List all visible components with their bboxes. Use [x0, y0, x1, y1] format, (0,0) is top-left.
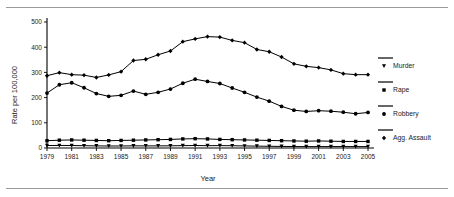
data-point-marker	[366, 72, 370, 76]
x-axis-tick-label: 2005	[361, 153, 376, 160]
data-point-marker	[243, 90, 247, 94]
data-point-marker	[82, 73, 86, 77]
data-point-marker	[341, 71, 345, 75]
legend-item-label: Murder	[393, 62, 415, 69]
series-agg-assault	[45, 34, 370, 79]
data-point-marker	[57, 70, 61, 74]
data-point-marker	[107, 139, 110, 142]
y-axis-tick-label: 200	[31, 94, 42, 101]
data-point-marker	[242, 40, 246, 44]
data-point-marker	[218, 35, 222, 39]
data-point-marker	[156, 138, 159, 141]
series-robbery	[45, 77, 370, 115]
y-axis-tick-label: 0	[38, 144, 42, 151]
y-axis-tick-label: 300	[31, 69, 42, 76]
data-point-marker	[144, 92, 148, 96]
data-point-marker	[70, 72, 74, 76]
data-point-marker	[95, 139, 98, 142]
data-point-marker	[255, 138, 258, 141]
data-point-marker	[366, 111, 370, 115]
legend-item-murder[interactable]: Murder	[378, 58, 415, 69]
data-point-marker	[317, 109, 321, 113]
data-point-marker	[70, 81, 74, 85]
x-axis: 1979198119831985198719891991199319951997…	[40, 148, 376, 160]
data-point-marker	[280, 105, 284, 109]
data-point-marker	[181, 81, 185, 85]
y-axis-tick-label: 100	[31, 119, 42, 126]
data-point-marker	[279, 55, 283, 59]
data-point-marker	[292, 108, 296, 112]
data-point-marker	[230, 38, 234, 42]
chart-figure: 0100200300400500 19791981198319851987198…	[0, 0, 454, 197]
data-point-marker	[218, 138, 221, 141]
data-point-marker	[341, 110, 345, 114]
x-axis-tick-label: 1999	[287, 153, 302, 160]
data-point-marker	[267, 50, 271, 54]
y-axis-tick-label: 500	[31, 18, 42, 25]
legend-item-agg-assault[interactable]: Agg. Assault	[378, 130, 431, 142]
data-point-marker	[218, 82, 222, 86]
x-axis-tick-label: 1985	[114, 153, 129, 160]
data-point-marker	[280, 139, 283, 142]
y-axis-tick-label: 400	[31, 44, 42, 51]
data-point-marker	[205, 34, 209, 38]
data-point-marker	[329, 109, 333, 113]
data-point-marker	[354, 72, 358, 76]
data-point-marker	[329, 68, 333, 72]
data-point-marker	[382, 88, 385, 91]
legend-item-rape[interactable]: Rape	[378, 82, 409, 94]
series-rape	[45, 137, 369, 143]
legend-item-label: Robbery	[393, 110, 419, 118]
data-point-marker	[304, 110, 308, 114]
legend-item-label: Rape	[393, 86, 409, 94]
data-point-marker	[169, 87, 173, 91]
data-point-marker	[94, 75, 98, 79]
data-point-marker	[193, 77, 197, 81]
legend-item-robbery[interactable]: Robbery	[378, 106, 419, 118]
data-point-marker	[132, 89, 136, 93]
data-point-marker	[366, 140, 369, 143]
data-point-marker	[45, 91, 49, 95]
x-axis-tick-label: 2001	[311, 153, 326, 160]
x-axis-tick-label: 1987	[139, 153, 154, 160]
chart-legend: MurderRapeRobberyAgg. Assault	[378, 58, 431, 142]
data-point-marker	[267, 99, 271, 103]
data-point-marker	[156, 53, 160, 57]
data-point-marker	[292, 139, 295, 142]
data-point-marker	[107, 73, 111, 77]
data-point-marker	[342, 140, 345, 143]
data-point-marker	[292, 62, 296, 66]
x-axis-title: Year	[200, 174, 216, 183]
x-axis-tick-label: 1979	[40, 153, 55, 160]
data-point-marker	[119, 93, 123, 97]
data-point-marker	[193, 37, 197, 41]
x-axis-tick-label: 1989	[163, 153, 178, 160]
data-point-marker	[329, 139, 332, 142]
data-point-marker	[255, 95, 259, 99]
series-polyline	[47, 79, 368, 114]
data-point-marker	[181, 137, 184, 140]
x-axis-tick-label: 1995	[237, 153, 252, 160]
data-point-marker	[206, 80, 210, 84]
data-point-marker	[230, 138, 233, 141]
data-point-marker	[268, 139, 271, 142]
data-point-marker	[317, 139, 320, 142]
line-chart-plot: 0100200300400500 19791981198319851987198…	[0, 0, 454, 197]
x-axis-tick-label: 1991	[188, 153, 203, 160]
series-polyline	[47, 37, 368, 78]
data-point-marker	[304, 64, 308, 68]
data-point-marker	[382, 112, 386, 116]
data-point-marker	[169, 138, 172, 141]
data-point-marker	[144, 138, 147, 141]
data-point-marker	[107, 94, 111, 98]
data-point-marker	[305, 139, 308, 142]
series-container	[45, 34, 370, 148]
x-axis-tick-label: 1993	[213, 153, 228, 160]
data-point-marker	[45, 139, 48, 142]
data-point-marker	[354, 112, 358, 116]
y-axis-title: Rate per 100,000	[10, 66, 19, 124]
x-axis-tick-label: 1983	[89, 153, 104, 160]
data-point-marker	[382, 136, 386, 140]
x-axis-tick-label: 1997	[262, 153, 277, 160]
data-point-marker	[206, 137, 209, 140]
